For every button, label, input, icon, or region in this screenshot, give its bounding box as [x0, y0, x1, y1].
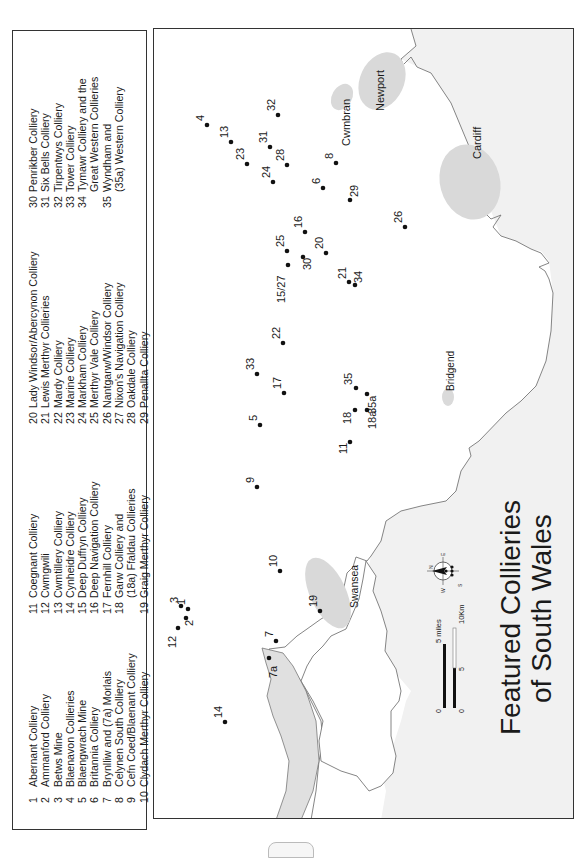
colliery-marker-label: 13 [218, 126, 230, 138]
legend-item: 24Markham Colliery [76, 251, 88, 424]
colliery-marker-icon [267, 656, 272, 661]
colliery-marker-label: 10 [267, 555, 279, 567]
colliery-marker-label: 31 [257, 131, 269, 143]
colliery-marker-label: 19 [307, 595, 319, 607]
legend-item-continuation: (35a) Western Colliery [113, 77, 125, 208]
colliery-marker-label: 18 [341, 412, 353, 424]
colliery-marker-icon [285, 249, 290, 254]
legend-item: 29Penallta Colliery [138, 251, 150, 424]
colliery-marker-label: 7 [263, 631, 275, 637]
map-title-line-2: of South Wales [526, 514, 557, 703]
legend-item: 22Mardy Colliery [52, 251, 64, 424]
colliery-marker-label: 4 [194, 115, 206, 121]
town-label-cwmbran: Cwmbran [340, 99, 352, 146]
colliery-marker-label: 5 [247, 415, 259, 421]
colliery-marker-icon [176, 626, 181, 631]
colliery-marker-icon [365, 392, 370, 397]
legend-item: 7Brynlliw and (7a) Morlais [101, 653, 113, 803]
legend-column-1: 1Abernant Colliery 2Ammanford Colliery 3… [27, 653, 150, 803]
colliery-marker-label: 14 [212, 706, 224, 718]
colliery-marker-icon [255, 485, 260, 490]
svg-text:N: N [428, 565, 434, 569]
svg-text:W: W [440, 588, 446, 593]
colliery-marker-icon [403, 225, 408, 230]
colliery-marker-label: 18a [366, 410, 378, 429]
legend-item: 5Blaengwrach Mine [76, 653, 88, 803]
map-panel: Newport Cwmbran Cardiff Bridgend Swansea… [153, 28, 574, 819]
map-title-line-1: Featured Collieries [495, 500, 526, 735]
colliery-marker-icon [282, 391, 287, 396]
colliery-marker-icon [268, 145, 273, 150]
legend-item: 16Deep Navigation Colliery [88, 481, 100, 614]
legend-item: 11Coegnant Colliery [27, 481, 39, 614]
colliery-marker-icon [223, 720, 228, 725]
colliery-marker-icon [276, 113, 281, 118]
town-label-newport: Newport [374, 70, 386, 111]
colliery-marker-label: 23 [234, 148, 246, 160]
colliery-marker-icon [274, 639, 279, 644]
colliery-marker-icon [324, 251, 329, 256]
colliery-marker-label: 12 [166, 636, 178, 648]
colliery-marker-icon [354, 386, 359, 391]
legend-item: 1Abernant Colliery [27, 653, 39, 803]
colliery-marker-label: 32 [265, 99, 277, 111]
colliery-marker-label: 8 [323, 153, 335, 159]
legend-item: 8Celynen South Colliery [113, 653, 125, 803]
colliery-marker-icon [205, 123, 210, 128]
legend-item: 9Cefn Coed/Blaenant Colliery [125, 653, 137, 803]
legend-item: 19Graig Merthyr Colliery [138, 481, 150, 614]
legend-item: 18Garw Colliery and [113, 481, 125, 614]
page-tab-artifact [268, 842, 314, 858]
town-label-cardiff: Cardiff [471, 126, 483, 159]
colliery-marker-icon [258, 423, 263, 428]
svg-text:5 miles: 5 miles [434, 619, 443, 643]
colliery-marker-label: 21 [336, 267, 348, 279]
legend-item: 26Nantgarw/Windsor Colliery [101, 251, 113, 424]
legend-item: 33Tower Colliery [64, 77, 76, 208]
town-label-bridgend: Bridgend [445, 351, 456, 391]
legend-item: 32Tirpentwys Colliery [52, 77, 64, 208]
colliery-marker-label: 33 [244, 358, 256, 370]
legend-item: 14Cynheidre Colliery [64, 481, 76, 614]
colliery-marker-icon [255, 372, 260, 377]
legend-column-2: 11Coegnant Colliery 12Cwmgwili 13Cwmtill… [27, 481, 150, 614]
svg-text:10Km: 10Km [457, 604, 466, 624]
legend-item: 6Britannia Colliery [88, 653, 100, 803]
colliery-marker-label: 28 [274, 149, 286, 161]
legend-item: 30Penrikber Colliery [27, 77, 39, 208]
colliery-marker-label: 26 [392, 211, 404, 223]
legend-item: 34Tymawr Colliery and the [76, 77, 88, 208]
legend-item: 28Oakdale Colliery [125, 251, 137, 424]
svg-text:0: 0 [435, 709, 442, 713]
colliery-marker-icon [229, 140, 234, 145]
legend-item: 4Blaenavon Collieries [64, 653, 76, 803]
legend-item: 3Betws Mine [52, 653, 64, 803]
svg-text:0: 0 [458, 709, 465, 713]
colliery-marker-label: 20 [313, 237, 325, 249]
colliery-marker-icon [318, 609, 323, 614]
svg-text:5: 5 [458, 667, 465, 671]
colliery-marker-icon [303, 230, 308, 235]
legend-panel: 1Abernant Colliery 2Ammanford Colliery 3… [12, 30, 147, 830]
legend-item: 23Marine Colliery [64, 251, 76, 424]
legend-item: 10Clydach Merthyr Colliery [138, 653, 150, 803]
legend-item: 27Nixon's Navigation Colliery [113, 251, 125, 424]
colliery-marker-label: 6 [310, 178, 322, 184]
legend-item: 20Lady Windsor/Abercynon Colliery [27, 251, 39, 424]
legend-item: 17Fernhill Colliery [101, 481, 113, 614]
legend-item: 12Cwmgwili [39, 481, 51, 614]
legend-item: 25Merthyr Vale Colliery [88, 251, 100, 424]
colliery-marker-icon [271, 180, 276, 185]
colliery-marker-icon [285, 163, 290, 168]
colliery-marker-icon [353, 408, 358, 413]
legend-item: 31Six Bells Colliery [39, 77, 51, 208]
colliery-marker-icon [278, 569, 283, 574]
legend-item: 21Lewis Merthyr Collieries [39, 251, 51, 424]
colliery-marker-label: 1 [175, 599, 187, 605]
colliery-marker-icon [245, 162, 250, 167]
legend-item: 2Ammanford Colliery [39, 653, 51, 803]
colliery-marker-icon [347, 280, 352, 285]
colliery-marker-label: 30 [301, 258, 313, 270]
legend-item-continuation: (18a) Ffaldau Collieries [125, 481, 137, 614]
colliery-marker-icon [348, 198, 353, 203]
